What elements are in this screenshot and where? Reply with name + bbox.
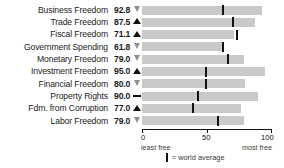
category-value: 61.8: [111, 43, 130, 52]
world-average-tick: [205, 67, 207, 77]
bar-fiscal-freedom: [142, 30, 234, 39]
category-label: Investment Freedom: [0, 67, 111, 76]
category-label: Business Freedom: [0, 6, 111, 15]
category-label: Property Rights: [0, 92, 111, 101]
category-value: 71.1: [111, 30, 130, 39]
legend-label: = world average: [172, 154, 225, 161]
category-value: 77.0: [111, 104, 130, 113]
plot-area: 0 50 100 least free most free = world av…: [142, 0, 284, 168]
legend-world-average-icon: [166, 153, 168, 162]
category-value: 87.5: [111, 18, 130, 27]
axis-end-label-left: least free: [141, 144, 171, 151]
world-average-tick: [227, 54, 229, 64]
x-axis-tick-label: 100: [261, 134, 274, 142]
world-average-tick: [222, 42, 224, 52]
bar-property-rights: [142, 92, 258, 101]
category-label: Trade Freedom: [0, 18, 111, 27]
world-average-tick: [236, 30, 238, 40]
x-axis-tick-label: 0: [141, 134, 145, 142]
bar-financial-freedom: [142, 79, 245, 88]
category-label: Fdm. from Corruption: [0, 104, 111, 113]
world-average-tick: [192, 103, 194, 113]
category-label: Fiscal Freedom: [0, 30, 111, 39]
category-label: Government Spending: [0, 43, 111, 52]
world-average-tick: [217, 116, 219, 126]
bar-government-spending: [142, 42, 222, 51]
bar-investment-freedom: [142, 67, 265, 76]
axis-end-label-right: most free: [242, 144, 272, 151]
category-label: Financial Freedom: [0, 80, 111, 89]
legend: = world average: [166, 153, 225, 162]
bar-labor-freedom: [142, 116, 244, 125]
world-average-tick: [205, 79, 207, 89]
bar-trade-freedom: [142, 18, 255, 27]
category-label: Labor Freedom: [0, 117, 111, 126]
category-value: 80.0: [111, 80, 130, 89]
category-value: 79.0: [111, 117, 130, 126]
world-average-tick: [222, 5, 224, 15]
x-axis-tick-label: 50: [202, 134, 210, 142]
category-value: 95.0: [111, 67, 130, 76]
world-average-tick: [197, 91, 199, 101]
category-value: 79.0: [111, 55, 130, 64]
category-value: 92.8: [111, 6, 130, 15]
category-label: Monetary Freedom: [0, 55, 111, 64]
world-average-tick: [232, 17, 234, 27]
category-value: 90.0: [111, 92, 130, 101]
bar-business-freedom: [142, 6, 262, 15]
freedom-index-chart: Business Freedom 92.8 Trade Freedom 87.5…: [0, 0, 284, 168]
